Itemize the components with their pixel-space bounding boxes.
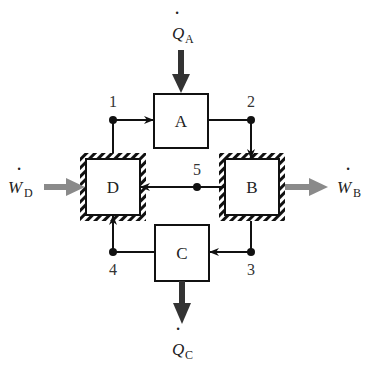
box-d-label: D — [107, 178, 119, 197]
qa-subscript: A — [185, 32, 194, 46]
work-out-arrow-b — [285, 178, 328, 196]
node-2-label: 2 — [247, 93, 255, 110]
node-5-dot — [193, 183, 201, 191]
work-out-label-wb: · W B — [337, 158, 361, 200]
node-1-dot — [109, 116, 117, 124]
wb-subscript: B — [353, 186, 361, 200]
node-3-dot — [247, 248, 255, 256]
qa-dot: · — [174, 2, 181, 24]
node-1-label: 1 — [109, 93, 117, 110]
wd-symbol: W — [8, 178, 24, 197]
wd-subscript: D — [24, 186, 33, 200]
node-4-dot — [109, 248, 117, 256]
node-3-label: 3 — [247, 261, 255, 278]
qc-symbol: Q — [172, 340, 184, 359]
work-in-arrow-d — [44, 178, 85, 196]
box-a-label: A — [175, 112, 188, 131]
wd-dot: · — [16, 158, 23, 180]
heat-in-arrow-a — [172, 50, 190, 93]
work-in-label-wd: · W D — [8, 158, 33, 200]
node-5-label: 5 — [193, 161, 201, 178]
heat-out-label-qc: · Q C — [172, 318, 193, 362]
diagram-canvas: A D B C 1 2 3 4 5 · — [0, 0, 367, 367]
node-4-label: 4 — [109, 261, 117, 278]
qc-subscript: C — [185, 348, 193, 362]
box-c-label: C — [176, 244, 187, 263]
heat-in-label-qa: · Q A — [172, 2, 194, 46]
box-b-label: B — [246, 178, 257, 197]
wb-symbol: W — [337, 178, 353, 197]
node-2-dot — [247, 116, 255, 124]
qa-symbol: Q — [172, 24, 184, 43]
cycle-diagram: A D B C 1 2 3 4 5 · — [0, 0, 367, 367]
wb-dot: · — [345, 158, 352, 180]
qc-dot: · — [175, 318, 182, 340]
